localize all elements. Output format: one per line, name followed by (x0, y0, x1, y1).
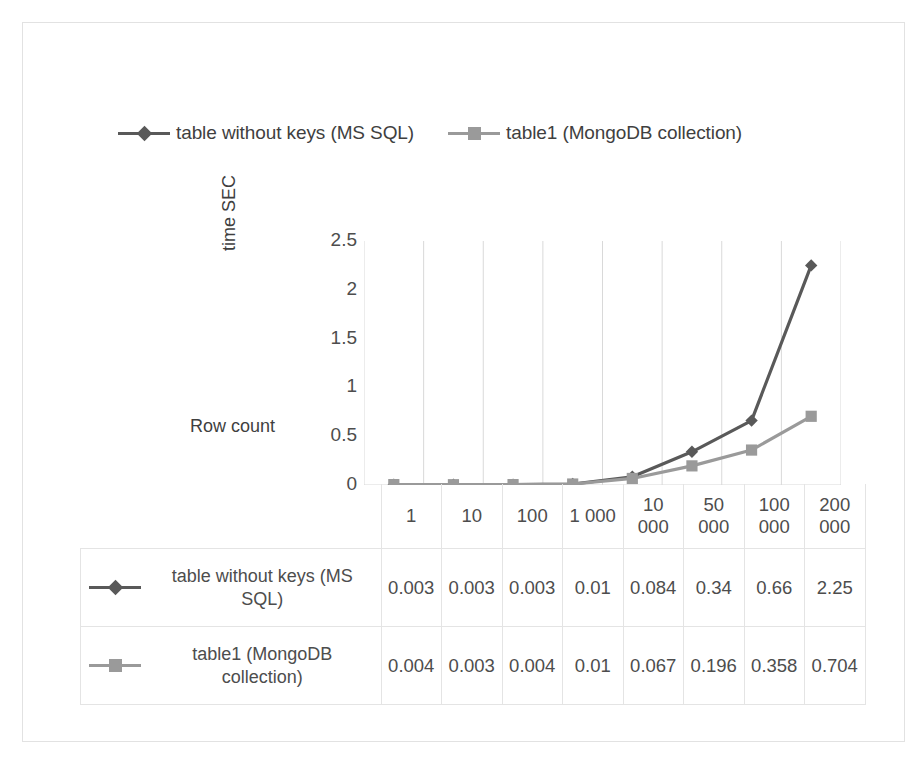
y-axis-tick-label: 2 (346, 278, 357, 300)
data-value-cell: 0.003 (381, 549, 442, 627)
data-value-cell: 2.25 (805, 549, 866, 627)
y-axis-tick-label: 2.5 (331, 229, 357, 251)
category-label-cell: 200000 (805, 484, 866, 549)
legend-label-mongodb: table1 (MongoDB collection) (506, 122, 742, 144)
row-label-mongodb: table1 (MongoDB collection) (152, 643, 373, 688)
data-value-cell: 0.084 (623, 549, 684, 627)
legend-label-mssql: table without keys (MS SQL) (176, 122, 414, 144)
plot-svg (364, 241, 841, 485)
category-label-cell: 100000 (744, 484, 805, 549)
square-marker-icon (89, 657, 141, 675)
data-point-marker (627, 473, 638, 484)
data-value-cell: 0.01 (563, 627, 624, 705)
x-axis-title: Row count (190, 416, 275, 437)
diamond-marker-icon (89, 579, 141, 597)
category-label-cell: 10000 (623, 484, 684, 549)
table-row-mongodb: table1 (MongoDB collection) 0.0040.0030.… (81, 627, 866, 705)
data-point-marker (745, 414, 757, 426)
diamond-marker-icon (118, 124, 170, 142)
category-label-cell: 10 (442, 484, 503, 549)
legend-item-mssql[interactable]: table without keys (MS SQL) (118, 122, 414, 144)
table-row-mssql: table without keys (MS SQL) 0.0030.0030.… (81, 549, 866, 627)
row-head-mongodb: table1 (MongoDB collection) (81, 627, 382, 705)
data-value-cell: 0.196 (684, 627, 745, 705)
y-axis-ticks: 00.511.522.5 (279, 229, 357, 497)
data-point-marker (686, 446, 698, 458)
category-label-cell: 100 (502, 484, 563, 549)
data-value-cell: 0.66 (744, 549, 805, 627)
data-value-cell: 0.01 (563, 549, 624, 627)
data-value-cell: 0.358 (744, 627, 805, 705)
y-axis-tick-label: 0.5 (331, 424, 357, 446)
row-label-mssql: table without keys (MS SQL) (152, 565, 373, 610)
chart-legend: table without keys (MS SQL) table1 (Mong… (118, 118, 818, 148)
data-point-marker (686, 460, 697, 471)
data-value-cell: 0.34 (684, 549, 745, 627)
data-value-cell: 0.003 (442, 549, 503, 627)
data-value-cell: 0.004 (502, 627, 563, 705)
y-axis-tick-label: 1 (346, 375, 357, 397)
data-value-cell: 0.004 (381, 627, 442, 705)
category-label-cell: 1 000 (563, 484, 624, 549)
square-marker-icon (448, 124, 500, 142)
data-point-marker (806, 411, 817, 422)
data-value-cell: 0.003 (442, 627, 503, 705)
y-axis-title: time SEC (219, 175, 240, 251)
category-label-cell: 50000 (684, 484, 745, 549)
plot-area: 00.511.522.5 (364, 241, 841, 485)
legend-item-mongodb[interactable]: table1 (MongoDB collection) (448, 122, 742, 144)
y-axis-tick-label: 1.5 (331, 327, 357, 349)
data-point-marker (805, 259, 817, 271)
row-head-mssql: table without keys (MS SQL) (81, 549, 382, 627)
chart-data-table: 1101001 0001000050000100000200000 table … (80, 484, 866, 705)
data-value-cell: 0.003 (502, 549, 563, 627)
category-row: 1101001 0001000050000100000200000 (81, 484, 866, 549)
chart-frame: table without keys (MS SQL) table1 (Mong… (22, 22, 905, 742)
category-row-head (81, 484, 382, 549)
data-value-cell: 0.704 (805, 627, 866, 705)
data-point-marker (746, 444, 757, 455)
data-value-cell: 0.067 (623, 627, 684, 705)
category-label-cell: 1 (381, 484, 442, 549)
